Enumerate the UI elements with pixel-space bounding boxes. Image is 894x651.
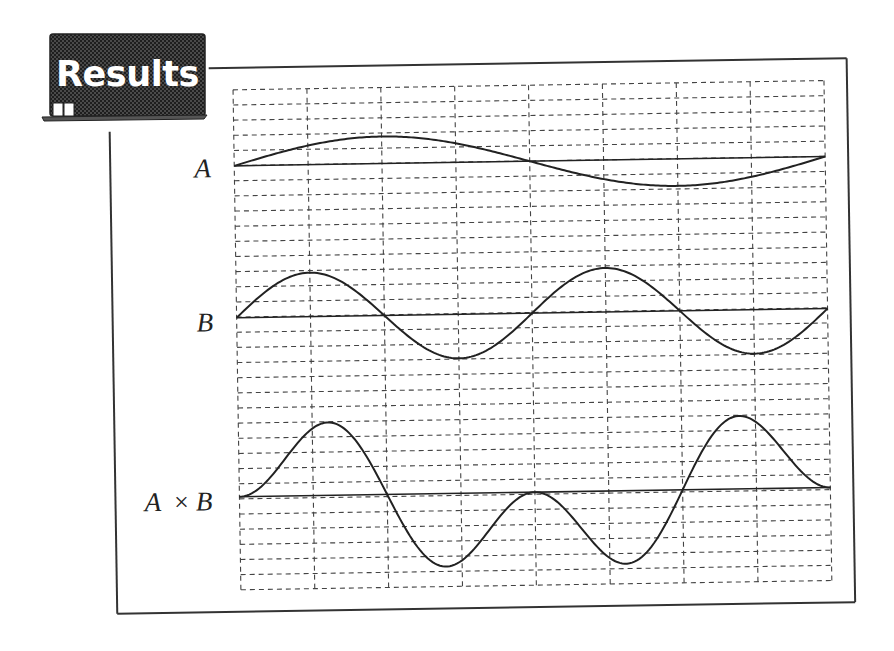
label-a: A [192, 153, 211, 183]
frame-top [209, 58, 847, 68]
badge-eraser-1 [53, 103, 63, 116]
curve-a [234, 130, 826, 193]
grid-vline [824, 81, 832, 581]
label-ab-b: B [196, 486, 213, 516]
curve-axb [238, 415, 831, 570]
frame-bottom [117, 602, 855, 614]
grid-vline [455, 86, 463, 586]
grid-vline [676, 83, 684, 583]
dashed-grid [233, 81, 832, 590]
grid-vline [602, 84, 610, 584]
grid-vline [381, 88, 389, 588]
label-a-times-b: A × B [142, 486, 212, 517]
label-b: B [196, 307, 213, 337]
results-figure: A B A × B Results [0, 0, 894, 651]
grid-vline [750, 82, 758, 582]
badge-title: Results [56, 53, 199, 94]
results-badge: Results [42, 34, 207, 121]
label-ab-op: × [174, 488, 189, 517]
badge-eraser-2 [64, 103, 74, 116]
chart-frame: A B A × B [109, 58, 855, 614]
frame-left [110, 132, 118, 614]
label-ab-a: A [142, 487, 161, 517]
grid-vline [307, 89, 315, 589]
frame-right [847, 58, 856, 602]
